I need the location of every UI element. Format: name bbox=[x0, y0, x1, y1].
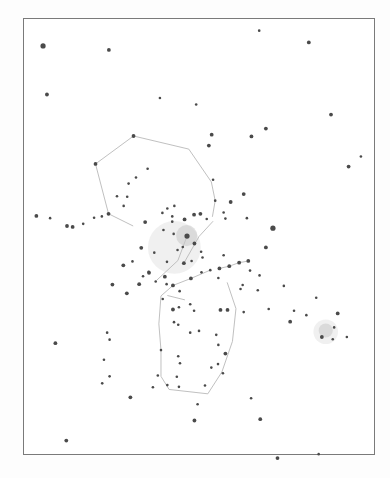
star bbox=[200, 250, 203, 253]
star bbox=[267, 308, 270, 311]
star bbox=[256, 289, 259, 292]
star bbox=[173, 205, 176, 208]
star bbox=[137, 282, 141, 286]
star bbox=[227, 264, 231, 268]
constellation-line bbox=[199, 221, 213, 236]
star bbox=[64, 439, 68, 443]
star bbox=[331, 338, 334, 341]
star bbox=[264, 246, 268, 250]
star bbox=[172, 233, 175, 236]
star bbox=[146, 167, 149, 170]
star bbox=[135, 176, 138, 179]
star bbox=[108, 338, 111, 341]
star bbox=[217, 363, 220, 366]
star bbox=[128, 395, 132, 399]
star bbox=[347, 165, 351, 169]
star bbox=[177, 323, 180, 326]
star bbox=[189, 277, 193, 281]
star bbox=[101, 215, 104, 218]
star bbox=[108, 375, 111, 378]
star bbox=[159, 97, 162, 100]
nebula bbox=[319, 323, 333, 337]
constellation-line bbox=[134, 136, 189, 149]
star bbox=[192, 213, 196, 217]
star bbox=[218, 267, 222, 271]
star bbox=[176, 249, 179, 252]
star bbox=[219, 308, 223, 312]
star bbox=[217, 344, 220, 347]
star bbox=[199, 212, 203, 216]
star bbox=[179, 362, 182, 365]
star bbox=[183, 218, 187, 222]
constellation-line bbox=[161, 376, 169, 389]
star bbox=[139, 246, 143, 250]
star bbox=[178, 386, 181, 389]
star bbox=[210, 366, 213, 369]
star bbox=[122, 205, 125, 208]
star bbox=[171, 215, 174, 218]
star bbox=[131, 260, 134, 263]
star bbox=[210, 133, 214, 137]
star bbox=[317, 453, 320, 456]
star bbox=[224, 217, 227, 220]
star bbox=[360, 155, 363, 158]
constellation-line bbox=[222, 341, 233, 372]
star bbox=[171, 220, 174, 223]
star bbox=[178, 290, 181, 293]
constellation-line bbox=[159, 296, 161, 324]
star bbox=[264, 127, 268, 131]
constellation-line bbox=[167, 295, 185, 299]
star bbox=[162, 229, 165, 232]
constellation-line bbox=[227, 282, 236, 308]
star bbox=[217, 277, 220, 280]
star bbox=[161, 212, 164, 215]
star bbox=[65, 224, 69, 228]
star bbox=[171, 308, 175, 312]
star bbox=[71, 225, 75, 229]
star bbox=[166, 384, 169, 387]
star bbox=[270, 226, 275, 231]
constellation-line bbox=[96, 164, 109, 214]
star bbox=[143, 220, 147, 224]
star bbox=[276, 456, 280, 460]
star bbox=[153, 251, 156, 254]
star bbox=[103, 358, 106, 361]
star bbox=[283, 285, 286, 288]
constellation-line bbox=[189, 149, 212, 182]
star bbox=[152, 386, 155, 389]
star bbox=[53, 341, 57, 345]
constellation-line bbox=[173, 278, 191, 285]
star bbox=[237, 261, 241, 265]
star bbox=[49, 217, 52, 220]
star bbox=[222, 254, 225, 257]
star bbox=[189, 331, 192, 334]
star bbox=[111, 283, 115, 287]
star bbox=[40, 43, 45, 48]
star bbox=[201, 256, 204, 259]
star bbox=[214, 199, 217, 202]
star bbox=[193, 242, 197, 246]
constellation-line bbox=[212, 201, 215, 217]
constellation-line bbox=[232, 309, 236, 342]
star bbox=[173, 321, 176, 324]
star bbox=[222, 211, 225, 214]
star bbox=[305, 314, 308, 317]
star bbox=[106, 331, 109, 334]
star bbox=[212, 178, 215, 181]
star bbox=[166, 261, 169, 264]
star bbox=[288, 320, 292, 324]
constellation-line bbox=[109, 214, 134, 226]
star bbox=[226, 308, 230, 312]
star bbox=[93, 216, 96, 219]
star bbox=[125, 291, 129, 295]
star bbox=[320, 335, 324, 339]
star bbox=[346, 336, 349, 339]
star bbox=[229, 200, 233, 204]
star bbox=[177, 355, 180, 358]
star bbox=[246, 259, 250, 263]
star bbox=[224, 352, 228, 356]
star bbox=[165, 283, 168, 286]
paper-sheet bbox=[0, 0, 390, 478]
star-chart bbox=[0, 0, 390, 478]
star bbox=[293, 309, 296, 312]
